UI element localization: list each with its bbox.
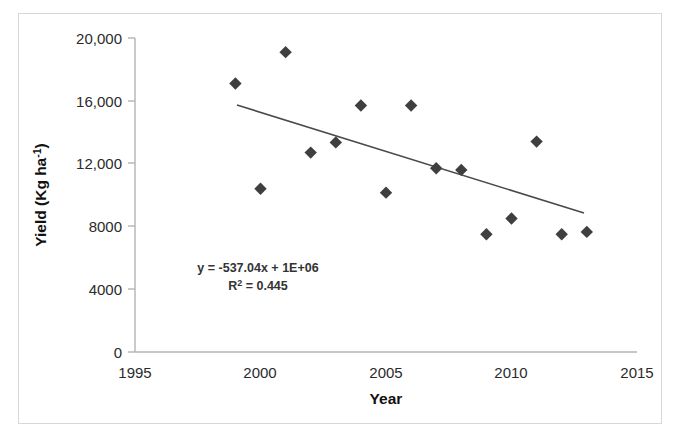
data-point bbox=[530, 135, 542, 147]
r-squared-label: R2 = 0.445 bbox=[228, 278, 288, 293]
x-tick-label-1995: 1995 bbox=[118, 364, 151, 381]
x-axis-title: Year bbox=[370, 390, 403, 407]
x-tick-label-2005: 2005 bbox=[369, 364, 402, 381]
y-axis-title-base: Yield (Kg ha bbox=[32, 157, 49, 246]
y-tick-label-12000: 12,000 bbox=[76, 155, 122, 172]
data-point bbox=[581, 226, 593, 238]
y-tick-label-0: 0 bbox=[114, 344, 122, 361]
y-tick-label-4000: 4000 bbox=[89, 281, 122, 298]
data-point bbox=[505, 212, 517, 224]
y-tick-label-20000: 20,000 bbox=[76, 30, 122, 47]
data-point bbox=[556, 228, 568, 240]
data-point bbox=[405, 99, 417, 111]
y-tick-label-16000: 16,000 bbox=[76, 93, 122, 110]
y-axis-title-superscript: -1 bbox=[31, 148, 43, 157]
data-point-markers bbox=[229, 46, 593, 241]
y-tick-label-8000: 8000 bbox=[89, 218, 122, 235]
x-axis-tick-labels: 1995 2000 2005 2010 2015 bbox=[118, 364, 653, 381]
y-axis-title: Yield (Kg ha-1) bbox=[31, 143, 49, 247]
x-tick-label-2015: 2015 bbox=[620, 364, 653, 381]
y-axis-title-tail: ) bbox=[32, 143, 49, 148]
r-squared-symbol: R bbox=[228, 279, 237, 293]
x-tick-label-2000: 2000 bbox=[243, 364, 276, 381]
scatter-plot: 20,000 16,000 12,000 8000 4000 0 1995 20… bbox=[0, 0, 679, 439]
y-axis-ticks bbox=[128, 38, 135, 352]
data-point bbox=[430, 162, 442, 174]
data-point bbox=[380, 186, 392, 198]
x-tick-label-2010: 2010 bbox=[494, 364, 527, 381]
data-point bbox=[355, 99, 367, 111]
data-point bbox=[229, 77, 241, 89]
y-axis-tick-labels: 20,000 16,000 12,000 8000 4000 0 bbox=[76, 30, 122, 361]
trend-line bbox=[237, 105, 584, 213]
data-point bbox=[330, 136, 342, 148]
trendline-equation-label: y = -537.04x + 1E+06 bbox=[197, 261, 318, 275]
data-point bbox=[254, 183, 266, 195]
data-point bbox=[305, 146, 317, 158]
r-squared-value: = 0.445 bbox=[242, 279, 288, 293]
data-point bbox=[480, 228, 492, 240]
data-point bbox=[279, 46, 291, 58]
chart-figure: 20,000 16,000 12,000 8000 4000 0 1995 20… bbox=[0, 0, 679, 439]
